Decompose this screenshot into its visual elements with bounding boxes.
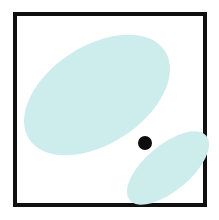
point-marker-dot [138,136,152,150]
figure-canvas [0,0,219,220]
figure-container: Two overlapping-region ellipse diagram w… [0,0,219,220]
